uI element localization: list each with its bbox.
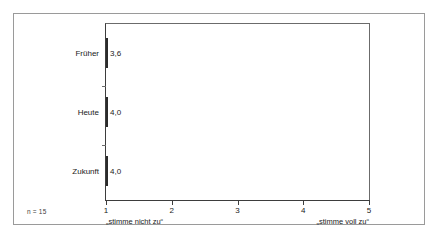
y-axis-tick	[102, 86, 106, 87]
scale-anchor-high: „stimme voll zu“	[316, 217, 369, 226]
category-label: Zukunft	[72, 167, 99, 176]
bar-value-label: 4,0	[106, 167, 121, 176]
x-axis-tick-label: 1	[104, 206, 108, 215]
chart-figure: Früher 3,6 Heute 4,0 Zukunft 4,0 1 2 3	[13, 13, 425, 225]
x-axis-tick-label: 2	[170, 206, 174, 215]
y-axis-tick	[102, 145, 106, 146]
x-axis-tick-label: 3	[235, 206, 239, 215]
x-axis-tick	[369, 200, 370, 205]
x-axis-tick	[238, 200, 239, 205]
x-axis-tick	[303, 200, 304, 205]
plot-area: Früher 3,6 Heute 4,0 Zukunft 4,0 1 2 3	[105, 23, 370, 201]
category-label: Heute	[78, 108, 99, 117]
scale-anchor-low: „stimme nicht zu“	[106, 217, 163, 226]
bar-value-label: 4,0	[106, 108, 121, 117]
x-axis-tick-label: 5	[367, 206, 371, 215]
x-axis-tick	[172, 200, 173, 205]
bar-value-label: 3,6	[106, 49, 121, 58]
sample-size-note: n = 15	[27, 208, 46, 215]
category-label: Früher	[75, 49, 99, 58]
x-axis-tick-label: 4	[301, 206, 305, 215]
x-axis-tick	[106, 200, 107, 205]
